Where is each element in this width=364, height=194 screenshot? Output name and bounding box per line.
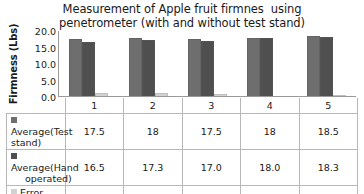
bar — [214, 94, 227, 96]
data-cell: 18.3 — [299, 149, 358, 185]
y-axis-tick-label: 5.0 — [41, 75, 56, 86]
y-axis-tick-label: 0.0 — [41, 92, 56, 103]
bar — [201, 41, 214, 96]
category-header-cell: 5 — [299, 98, 358, 113]
data-cell: 0.0 — [241, 185, 300, 194]
bar-group — [297, 31, 356, 96]
bar-groups — [59, 31, 356, 96]
legend-row-label: Average(Test stand) — [7, 113, 66, 149]
category-header-cell: 3 — [182, 98, 241, 113]
category-header-cell: 2 — [124, 98, 183, 113]
table-row: Average(Test stand)17.51817.51818.5 — [7, 113, 358, 149]
table-body: Average(Test stand)17.51817.51818.5Avera… — [7, 113, 358, 194]
data-cell: 0.3 — [299, 185, 358, 194]
bar — [155, 93, 168, 96]
y-axis-tick-label: 15.0 — [35, 42, 56, 53]
table-row: Average(Handoperated)16.517.317.018.018.… — [7, 149, 358, 185]
legend-swatch-icon — [11, 189, 17, 194]
table-header-row: 12345 — [7, 98, 358, 113]
legend-row-label: Average(Handoperated) — [7, 149, 66, 185]
data-cell: 17.5 — [65, 113, 124, 149]
y-axis-tick-label: 10.0 — [35, 59, 56, 70]
series-name: Average(Test stand) — [11, 126, 72, 148]
data-cell: 0.8 — [124, 185, 183, 194]
chart-container: Measurement of Apple fruit firmnes using… — [0, 0, 364, 194]
series-name: Average(Hand — [11, 162, 79, 173]
bar — [129, 38, 142, 97]
bar — [307, 36, 320, 96]
bar — [320, 37, 333, 96]
series-name-line2: operated) — [11, 173, 62, 184]
legend-swatch-icon — [11, 153, 17, 159]
data-cell: 17.3 — [124, 149, 183, 185]
data-cell: 18 — [241, 113, 300, 149]
y-axis-label: Firmness (Lbs) — [8, 24, 19, 105]
data-cell: 0.5 — [182, 185, 241, 194]
data-cell: 1.0 — [65, 185, 124, 194]
bar-group — [178, 31, 237, 96]
category-header-cell: 1 — [65, 98, 124, 113]
legend-row-label: Error (Lbs) — [7, 185, 66, 194]
data-cell: 17.5 — [182, 113, 241, 149]
bar-group — [59, 31, 118, 96]
bar — [69, 39, 82, 96]
bar-group — [237, 31, 296, 96]
y-axis-tick-label: 20.0 — [35, 26, 56, 37]
legend-swatch-icon — [11, 117, 17, 123]
bar-group — [118, 31, 177, 96]
data-cell: 18.0 — [241, 149, 300, 185]
y-axis-ticks: 0.05.010.015.020.0 — [26, 31, 58, 97]
category-header-cell: 4 — [241, 98, 300, 113]
table-row: Error (Lbs)1.00.80.50.00.3 — [7, 185, 358, 194]
bar — [333, 95, 346, 96]
y-axis-label-cell: Firmness (Lbs) — [0, 31, 26, 97]
bar — [82, 42, 95, 96]
bar — [247, 38, 260, 97]
plot-area — [58, 31, 356, 97]
plot-region: Firmness (Lbs) 0.05.010.015.020.0 — [0, 31, 364, 97]
data-table: 12345 Average(Test stand)17.51817.51818.… — [6, 98, 358, 194]
bar — [95, 93, 108, 96]
bar — [142, 40, 155, 96]
data-cell: 17.0 — [182, 149, 241, 185]
bar — [260, 38, 273, 97]
data-cell: 18.5 — [299, 113, 358, 149]
data-cell: 18 — [124, 113, 183, 149]
bar — [188, 39, 201, 96]
